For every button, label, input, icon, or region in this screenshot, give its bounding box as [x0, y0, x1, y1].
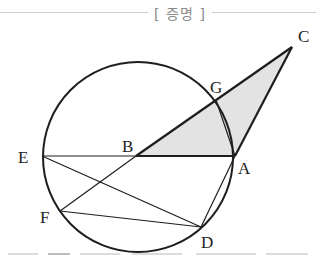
label-c: C — [298, 27, 309, 46]
segment-ad — [201, 156, 235, 227]
label-b: B — [122, 137, 133, 156]
segment-bf — [60, 156, 136, 211]
segment-fd — [60, 211, 201, 227]
geometry-diagram: C G B A E F D — [0, 0, 316, 257]
label-e: E — [18, 148, 28, 167]
label-d: D — [201, 233, 213, 252]
label-a: A — [238, 159, 251, 178]
cropped-text-strip — [0, 251, 316, 257]
label-g: G — [210, 78, 222, 97]
label-f: F — [40, 208, 49, 227]
